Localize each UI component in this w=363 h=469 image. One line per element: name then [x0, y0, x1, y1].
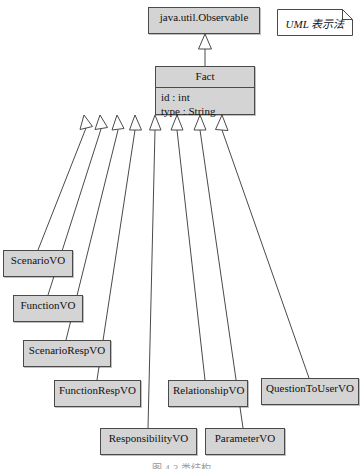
class-name-questiontouservo: QuestionToUserVO: [262, 379, 358, 398]
class-box-observable[interactable]: java.util.Observable: [148, 7, 260, 34]
class-box-functionvo[interactable]: FunctionVO: [13, 295, 83, 322]
uml-class-diagram: java.util.Observable Fact id : int type …: [0, 0, 363, 469]
edge-questiontouservo: [222, 130, 309, 378]
class-name-responsibilityvo: ResponsibilityVO: [101, 429, 196, 448]
class-box-scenariovo[interactable]: ScenarioVO: [3, 250, 73, 277]
class-box-relationshipvo[interactable]: RelationshipVO: [168, 380, 248, 407]
class-name-functionrespvo: FunctionRespVO: [55, 381, 140, 400]
class-name-fact: Fact: [156, 67, 254, 88]
class-name-relationshipvo: RelationshipVO: [169, 381, 247, 400]
arrowhead-scenariorespvo: [112, 115, 124, 130]
edge-scenariovo: [38, 128, 86, 250]
class-name-scenariorespvo: ScenarioRespVO: [24, 341, 110, 360]
arrowhead-functionvo: [95, 115, 108, 130]
class-name-functionvo: FunctionVO: [14, 296, 82, 315]
arrowhead-scenariovo: [80, 115, 93, 130]
class-box-responsibilityvo[interactable]: ResponsibilityVO: [100, 428, 197, 455]
class-name-observable: java.util.Observable: [149, 8, 259, 27]
class-box-fact[interactable]: Fact id : int type : String: [155, 66, 255, 115]
attribute-id: id : int: [161, 90, 249, 104]
attribute-type: type : String: [161, 104, 249, 118]
class-name-scenariovo: ScenarioVO: [4, 251, 72, 270]
class-box-scenariorespvo[interactable]: ScenarioRespVO: [23, 340, 111, 367]
figure-caption: 图 4-3 类结构: [0, 460, 363, 469]
arrowhead-functionrespvo: [130, 115, 142, 130]
uml-notation-note[interactable]: UML 表示法: [277, 9, 353, 36]
class-box-parametervo[interactable]: ParameterVO: [205, 428, 285, 455]
class-name-parametervo: ParameterVO: [206, 429, 284, 448]
class-box-questiontouservo[interactable]: QuestionToUserVO: [261, 378, 359, 405]
class-attributes-fact: id : int type : String: [156, 88, 254, 122]
note-text: UML 表示法: [277, 9, 353, 36]
edge-responsibilityvo: [148, 130, 155, 428]
class-box-functionrespvo[interactable]: FunctionRespVO: [54, 380, 141, 407]
edge-relationshipvo: [177, 130, 205, 380]
arrowhead-observable: [199, 34, 212, 49]
